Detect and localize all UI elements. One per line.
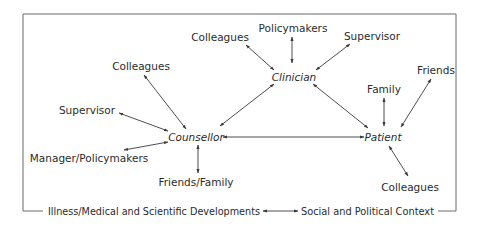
node-counsellor-colleagues: Colleagues (112, 60, 170, 72)
context-right-label: Social and Political Context (301, 205, 434, 217)
relationship-diagram: Clinician Counsellor Patient Colleagues … (0, 0, 479, 228)
edge-clinician-counsellor (220, 84, 274, 126)
node-patient-family: Family (367, 83, 401, 95)
edge-patient-colleagues (389, 146, 408, 176)
node-clinician: Clinician (272, 71, 317, 83)
context-left-label: Illness/Medical and Scientific Developme… (48, 205, 260, 217)
edge-counsellor-manager (124, 142, 168, 150)
edge-patient-friends (401, 79, 431, 127)
node-counsellor: Counsellor (168, 131, 224, 143)
edge-clinician-supervisor (316, 44, 350, 70)
node-patient: Patient (364, 131, 402, 143)
edge-counsellor-colleagues (144, 75, 186, 129)
node-clinician-colleagues: Colleagues (191, 31, 249, 43)
node-clinician-supervisor: Supervisor (344, 30, 401, 42)
node-counsellor-friends-family: Friends/Family (158, 176, 233, 188)
node-counsellor-supervisor: Supervisor (59, 104, 116, 116)
node-patient-friends: Friends (417, 64, 455, 76)
edge-counsellor-supervisor (119, 113, 168, 131)
edge-clinician-patient (313, 84, 368, 128)
node-counsellor-manager-policymakers: Manager/Policymakers (30, 152, 148, 164)
node-patient-colleagues: Colleagues (381, 181, 439, 193)
edge-clinician-colleagues (246, 45, 274, 70)
node-clinician-policymakers: Policymakers (259, 22, 328, 34)
